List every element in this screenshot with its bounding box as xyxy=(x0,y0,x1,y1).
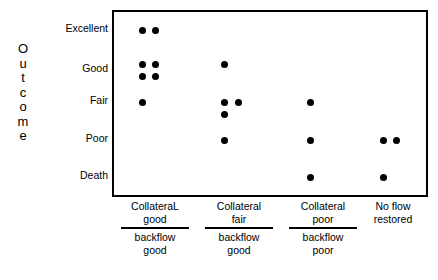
data-point xyxy=(152,73,159,80)
y-axis-tick-label: Death xyxy=(4,169,112,181)
data-point xyxy=(221,137,228,144)
x-axis-denominator-line: good xyxy=(196,244,282,257)
data-point xyxy=(307,99,314,106)
data-point xyxy=(152,61,159,68)
x-axis-numerator-line: restored xyxy=(350,213,436,226)
data-point xyxy=(139,73,146,80)
x-axis-denominator-line: backflow xyxy=(196,231,282,244)
y-axis-tick-labels: ExcellentGoodFairPoorDeath xyxy=(0,0,112,280)
data-point xyxy=(221,99,228,106)
dot-plot-figure: Outcome ExcellentGoodFairPoorDeath Colla… xyxy=(0,0,438,280)
x-axis-denominator-line: backflow xyxy=(280,231,366,244)
x-axis-fraction-rule xyxy=(121,227,189,229)
plot-area xyxy=(112,10,428,197)
data-point xyxy=(221,111,228,118)
data-point xyxy=(139,27,146,34)
data-point xyxy=(139,99,146,106)
data-point xyxy=(235,99,242,106)
x-axis-numerator-line: Collateral xyxy=(196,200,282,213)
x-axis-numerator-line: CollateraL xyxy=(112,200,198,213)
y-axis-tick-label: Excellent xyxy=(4,22,112,34)
x-axis-group-label: CollateraLgoodbackflowgood xyxy=(112,200,198,256)
x-axis-group-labels: CollateraLgoodbackflowgoodCollateralfair… xyxy=(112,200,428,280)
x-axis-numerator-line: good xyxy=(112,213,198,226)
y-axis-tick-label: Poor xyxy=(4,132,112,144)
x-axis-denominator-line: backflow xyxy=(112,231,198,244)
data-point xyxy=(152,27,159,34)
x-axis-fraction-rule xyxy=(205,227,273,229)
data-point xyxy=(307,137,314,144)
x-axis-group-label: Collateralfairbackflowgood xyxy=(196,200,282,256)
x-axis-numerator-line: fair xyxy=(196,213,282,226)
x-axis-denominator-line: poor xyxy=(280,244,366,257)
data-point xyxy=(380,137,387,144)
x-axis-numerator-line: No flow xyxy=(350,200,436,213)
data-point xyxy=(139,61,146,68)
data-point xyxy=(380,174,387,181)
x-axis-fraction-rule xyxy=(289,227,357,229)
x-axis-group-label: No flowrestored xyxy=(350,200,436,225)
data-point xyxy=(393,137,400,144)
data-point xyxy=(307,174,314,181)
x-axis-denominator-line: good xyxy=(112,244,198,257)
y-axis-tick-label: Fair xyxy=(4,94,112,106)
data-point xyxy=(221,61,228,68)
y-axis-tick-label: Good xyxy=(4,62,112,74)
